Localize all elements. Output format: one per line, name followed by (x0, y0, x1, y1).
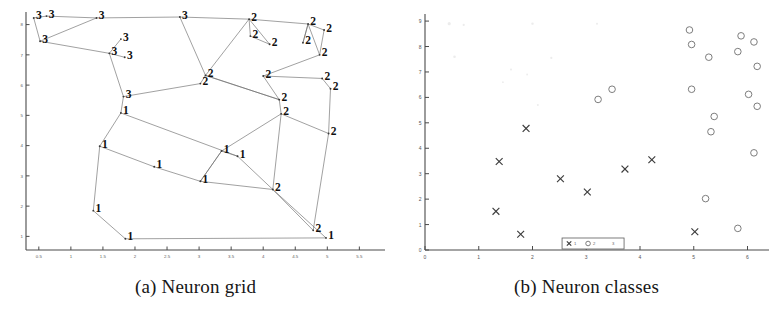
neuron-node-label: 3 (49, 8, 55, 20)
grid-edge (109, 53, 123, 96)
figure-two-panel: 0.511.522.533.544.555.512345678333333333… (0, 0, 783, 327)
noise-speck (531, 22, 533, 24)
noise-speck (448, 22, 451, 25)
noise-speck (463, 24, 465, 26)
marker-cross (517, 231, 524, 238)
panel-a-caption: (a) Neuron grid (0, 276, 391, 298)
marker-cross (648, 156, 655, 163)
neuron-node-label: 2 (208, 67, 214, 79)
neuron-node-label: 2 (305, 34, 311, 46)
neuron-node-label: 2 (315, 222, 321, 234)
grid-edge (123, 84, 200, 97)
neuron-node-dot (328, 133, 330, 135)
grid-edge (273, 189, 313, 230)
neuron-node-label: 2 (265, 68, 271, 80)
grid-edge (249, 19, 250, 36)
neuron-node-label: 1 (203, 173, 209, 185)
y-tick-label: 6 (21, 83, 24, 88)
x-tick-label: 2 (134, 254, 137, 259)
x-tick-label: 2.5 (164, 254, 171, 259)
neuron-node-label: 3 (36, 9, 42, 21)
marker-cross (691, 228, 698, 235)
y-tick-label: 5 (21, 113, 24, 118)
x-tick-label: 3 (585, 254, 588, 260)
grid-edge (100, 146, 154, 167)
grid-edge (93, 211, 125, 239)
neuron-node-label: 3 (99, 9, 105, 21)
y-tick-label: 5 (419, 120, 422, 126)
neuron-node-dot (122, 96, 124, 98)
grid-edge (93, 146, 99, 210)
y-tick-label: 2 (21, 204, 24, 209)
y-tick-label: 3 (419, 171, 422, 177)
legend: 123 (562, 238, 624, 249)
y-tick-label: 9 (419, 18, 422, 24)
x-tick-label: 4 (262, 254, 265, 259)
marker-circle (688, 86, 695, 93)
x-tick-label: 4.5 (292, 254, 299, 259)
x-tick-label: 0.5 (36, 254, 43, 259)
neuron-node-dot (237, 155, 239, 157)
marker-circle (738, 33, 745, 40)
neuron-node-dot (248, 18, 250, 20)
x-tick-label: 5 (692, 254, 695, 260)
neuron-node-dot (323, 29, 325, 31)
noise-speck (526, 74, 528, 76)
neuron-node-dot (92, 210, 94, 212)
x-tick-label: 5 (326, 254, 329, 259)
neuron-node-dot (278, 99, 280, 101)
y-tick-label: 1 (419, 222, 422, 228)
neuron-node-label: 2 (322, 46, 328, 58)
y-tick-label: 2 (419, 196, 422, 202)
neuron-node-dot (262, 75, 264, 77)
marker-circle (686, 27, 693, 34)
marker-cross (557, 175, 564, 182)
y-tick-label: 1 (21, 234, 24, 239)
x-tick-label: 3 (198, 254, 201, 259)
grid-edge (40, 18, 96, 41)
neuron-node-label: 1 (156, 158, 162, 170)
neuron-node-label: 2 (275, 181, 281, 193)
x-tick-label: 1 (477, 254, 480, 260)
neuron-node-label: 1 (224, 143, 230, 155)
noise-speck (537, 104, 539, 106)
neuron-node-label: 2 (331, 125, 337, 137)
marker-circle (754, 63, 761, 70)
grid-edge (97, 17, 180, 18)
neuron-node-label: 1 (128, 230, 134, 242)
x-tick-label: 6 (746, 254, 749, 260)
neuron-node-label: 2 (272, 36, 278, 48)
neuron-node-label: 3 (112, 45, 118, 57)
marker-cross (493, 208, 500, 215)
marker-circle (745, 91, 752, 98)
neuron-node-dot (108, 52, 110, 54)
neuron-node-label: 2 (283, 105, 289, 117)
neuron-node-dot (249, 35, 251, 37)
panel-a-neuron-grid: 0.511.522.533.544.555.512345678333333333… (0, 0, 391, 327)
grid-edge (273, 114, 281, 190)
y-tick-label: 8 (21, 22, 24, 27)
grid-edge (238, 156, 273, 189)
marker-circle (706, 54, 713, 61)
neuron-node-label: 2 (203, 75, 209, 87)
neuron-node-label: 3 (126, 88, 132, 100)
neuron-node-dot (302, 42, 304, 44)
grid-edge (263, 55, 319, 76)
neuron-node-dot (280, 113, 282, 115)
noise-speck (550, 57, 552, 59)
neuron-node-dot (319, 54, 321, 56)
noise-speck (596, 23, 598, 25)
noise-speck (502, 81, 504, 83)
neuron-node-label: 2 (324, 70, 330, 82)
grid-edge (180, 17, 249, 19)
series-class-2 (595, 27, 761, 232)
neuron-node-label: 2 (333, 80, 339, 92)
grid-edge (249, 19, 308, 24)
neuron-node-dot (312, 229, 314, 231)
x-tick-label: 4 (639, 254, 642, 260)
neuron-node-label: 2 (281, 91, 287, 103)
neuron-node-label: 2 (251, 11, 257, 23)
neuron-node-label: 2 (326, 22, 332, 34)
neuron-classes-chart: 01234560123456789123 (391, 0, 782, 275)
x-tick-label: 2 (531, 254, 534, 260)
